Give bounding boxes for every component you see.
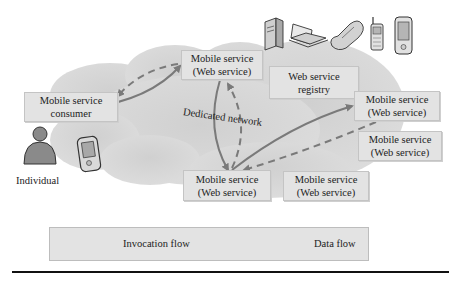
node-label: Web service [288, 70, 339, 83]
legend-invocation-label: Invocation flow [123, 238, 190, 249]
diagram-canvas: Mobile service consumer Mobile service (… [0, 0, 458, 284]
legend-data-label: Data flow [314, 238, 356, 249]
legend: Invocation flow Data flow [49, 227, 369, 261]
node-label: (Web service) [371, 146, 429, 159]
node-label: Mobile service [40, 94, 103, 107]
cell-phone-icon [371, 17, 383, 50]
node-label: (Web service) [368, 106, 426, 119]
node-label: (Web service) [198, 186, 256, 199]
node-consumer: Mobile service consumer [24, 92, 118, 122]
pda-icon [77, 136, 102, 172]
node-label: (Web service) [193, 65, 251, 78]
node-service-bottom: Mobile service (Web service) [183, 170, 271, 201]
node-service-right-2: Mobile service (Web service) [358, 131, 442, 161]
node-registry: Web service registry [269, 66, 359, 99]
node-label: Mobile service [295, 173, 358, 186]
node-service-top: Mobile service (Web service) [181, 50, 263, 80]
node-service-bottom-2: Mobile service (Web service) [283, 171, 369, 201]
individual-label: Individual [16, 175, 59, 186]
node-label: Mobile service [369, 133, 432, 146]
server-icon [265, 18, 283, 50]
node-service-right-1: Mobile service (Web service) [354, 91, 440, 121]
bottom-rule [12, 271, 449, 273]
node-label: Mobile service [366, 93, 429, 106]
node-label: Mobile service [196, 173, 259, 186]
pda-device-icon [395, 17, 412, 54]
node-label: (Web service) [297, 186, 355, 199]
flip-phone-icon [331, 21, 363, 50]
node-label: consumer [51, 107, 92, 120]
node-label: registry [298, 83, 330, 96]
node-label: Mobile service [191, 52, 254, 65]
